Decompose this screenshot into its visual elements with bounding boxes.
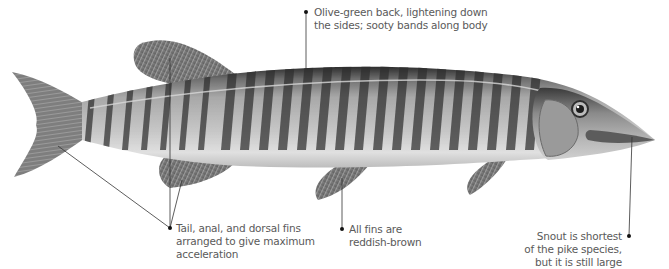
tail-fin bbox=[12, 72, 85, 177]
annotation-snout-line-3: but it is still large bbox=[524, 256, 622, 269]
pelvic-fin bbox=[316, 164, 370, 200]
dot-fin-color bbox=[340, 227, 344, 231]
annotation-fins-line-1: Tail, anal, and dorsal fins bbox=[176, 222, 315, 235]
annotation-back: Olive-green back, lightening down the si… bbox=[314, 6, 488, 32]
dot-fins bbox=[168, 226, 172, 230]
annotation-snout-line-1: Snout is shortest bbox=[524, 230, 622, 243]
fish-diagram bbox=[0, 0, 669, 269]
dot-back bbox=[304, 10, 308, 14]
annotation-fin-color: All fins are reddish-brown bbox=[349, 223, 422, 249]
annotation-snout: Snout is shortest of the pike species, b… bbox=[524, 230, 622, 269]
annotation-snout-line-2: of the pike species, bbox=[524, 243, 622, 256]
leader-tail bbox=[58, 146, 170, 228]
dot-snout bbox=[627, 234, 631, 238]
annotation-fins-line-3: acceleration bbox=[176, 248, 315, 261]
annotation-back-line-2: the sides; sooty bands along body bbox=[314, 19, 488, 32]
leader-snout bbox=[629, 137, 632, 236]
annotation-fins-line-2: arranged to give maximum bbox=[176, 235, 315, 248]
eye-highlight bbox=[577, 106, 580, 109]
annotation-fins-arrangement: Tail, anal, and dorsal fins arranged to … bbox=[176, 222, 315, 261]
annotation-fin-color-line-2: reddish-brown bbox=[349, 236, 422, 249]
annotation-fin-color-line-1: All fins are bbox=[349, 223, 422, 236]
annotation-back-line-1: Olive-green back, lightening down bbox=[314, 6, 488, 19]
